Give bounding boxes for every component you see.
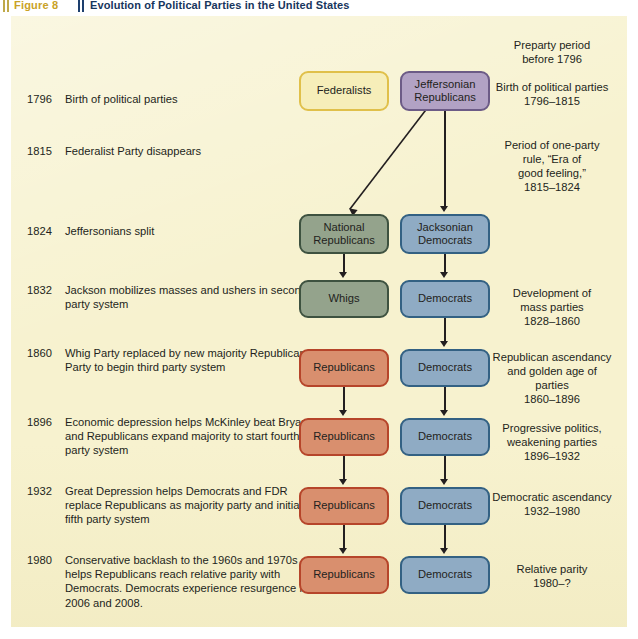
timeline-text: Jackson mobilizes masses and ushers in s…: [65, 283, 327, 311]
party-box-republicans-1860[interactable]: Republicans: [299, 349, 389, 387]
annotation: Development ofmass parties1828–1860: [477, 286, 627, 328]
timeline-year: 1896: [27, 415, 59, 429]
connector-republicans-1860-to-1896: [343, 387, 345, 411]
timeline-text: Economic depression helps McKinley beat …: [65, 415, 327, 458]
annotation: Progressive politics,weakening parties18…: [477, 421, 627, 463]
timeline-text: Federalist Party disappears: [65, 144, 327, 158]
timeline-year: 1796: [27, 92, 59, 106]
connector-republicans-1932-to-1980: [343, 525, 345, 549]
timeline-row: 1796 Birth of political parties: [27, 92, 327, 106]
connector-jacksonian-to-democrats-1832: [444, 254, 446, 273]
timeline-text: Birth of political parties: [65, 92, 327, 106]
annotation: Republican ascendancyand golden age ofpa…: [477, 350, 627, 406]
party-box-national-republicans[interactable]: NationalRepublicans: [299, 214, 389, 254]
figure-accent-bars-blue: [78, 0, 85, 12]
figure-accent-bars-gold: [3, 0, 10, 12]
figure-header-bar: Figure 8 Evolution of Political Parties …: [0, 0, 638, 13]
timeline-row: 1824 Jeffersonians split: [27, 224, 327, 238]
timeline-row: 1860 Whig Party replaced by new majority…: [27, 346, 327, 374]
timeline-year: 1824: [27, 224, 59, 238]
timeline-row: 1832 Jackson mobilizes masses and ushers…: [27, 283, 327, 311]
annotation: Preparty periodbefore 1796: [477, 38, 627, 66]
arrowhead: [339, 410, 347, 416]
arrowhead: [440, 206, 448, 212]
arrow-jeffersonian-to-national-republicans: [350, 98, 435, 209]
party-box-federalists[interactable]: Federalists: [299, 71, 389, 111]
arrowhead: [339, 479, 347, 485]
arrowhead: [440, 548, 448, 554]
arrowhead: [440, 341, 448, 347]
party-box-jeffersonian-republicans[interactable]: JeffersonianRepublicans: [400, 71, 490, 111]
arrowhead: [440, 410, 448, 416]
timeline-text: Whig Party replaced by new majority Repu…: [65, 346, 327, 374]
figure-canvas: 1796 Birth of political parties 1815 Fed…: [11, 16, 627, 627]
connector-national-republicans-to-whigs: [343, 254, 345, 273]
party-box-democrats-1896[interactable]: Democrats: [400, 418, 490, 456]
timeline-row: 1980 Conservative backlash to the 1960s …: [27, 553, 327, 610]
timeline-year: 1815: [27, 144, 59, 158]
party-box-republicans-1932[interactable]: Republicans: [299, 487, 389, 525]
timeline-row: 1815 Federalist Party disappears: [27, 144, 327, 158]
arrowhead: [440, 272, 448, 278]
party-box-democrats-1980[interactable]: Democrats: [400, 556, 490, 594]
annotation: Birth of political parties1796–1815: [477, 80, 627, 108]
annotation: Period of one-partyrule, “Era ofgood fee…: [477, 138, 627, 194]
timeline-year: 1932: [27, 484, 59, 498]
party-box-whigs[interactable]: Whigs: [299, 280, 389, 318]
timeline-year: 1832: [27, 283, 59, 297]
figure-title: Evolution of Political Parties in the Un…: [90, 0, 349, 11]
arrowhead: [339, 272, 347, 278]
connector-democrats-1860-to-1896: [444, 387, 446, 411]
annotation: Democratic ascendancy1932–1980: [477, 490, 627, 518]
timeline-row: 1932 Great Depression helps Democrats an…: [27, 484, 327, 527]
connector-jeffersonian-to-jacksonian: [444, 111, 446, 207]
timeline-year: 1860: [27, 346, 59, 360]
timeline-year: 1980: [27, 553, 59, 567]
arrowhead: [440, 479, 448, 485]
arrowhead: [339, 548, 347, 554]
annotation: Relative parity1980–?: [477, 562, 627, 590]
party-box-republicans-1980[interactable]: Republicans: [299, 556, 389, 594]
connector-democrats-1932-to-1980: [444, 525, 446, 549]
party-box-democrats-1860[interactable]: Democrats: [400, 349, 490, 387]
party-box-jacksonian-democrats[interactable]: JacksonianDemocrats: [400, 214, 490, 254]
party-box-democrats-1932[interactable]: Democrats: [400, 487, 490, 525]
connector-democrats-1832-to-1860: [444, 318, 446, 342]
figure-number-label: Figure 8: [14, 0, 58, 11]
party-box-democrats-1832[interactable]: Democrats: [400, 280, 490, 318]
connector-democrats-1896-to-1932: [444, 456, 446, 480]
connector-republicans-1896-to-1932: [343, 456, 345, 480]
timeline-text: Conservative backlash to the 1960s and 1…: [65, 553, 327, 610]
party-box-republicans-1896[interactable]: Republicans: [299, 418, 389, 456]
timeline-text: Great Depression helps Democrats and FDR…: [65, 484, 327, 527]
timeline-row: 1896 Economic depression helps McKinley …: [27, 415, 327, 458]
timeline-text: Jeffersonians split: [65, 224, 327, 238]
